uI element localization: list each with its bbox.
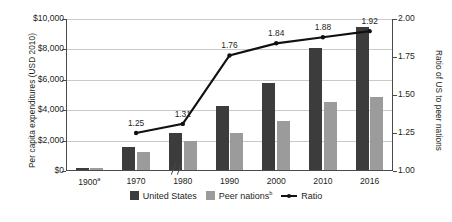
y-axis-right-ticks: 1.001.251.501.752.00 <box>398 0 442 222</box>
x-axis-label: 2016 <box>340 176 400 186</box>
ratio-value-label: 1.88 <box>315 22 331 32</box>
plot-area: 1.251.311.761.841.881.92 <box>66 19 393 171</box>
square-gray-swatch <box>206 191 215 200</box>
line-with-point-marker <box>281 191 297 200</box>
square-dark-swatch <box>130 191 139 200</box>
y-axis-right-tick-label: 2.00 <box>398 13 415 23</box>
ratio-point-marker <box>274 41 278 45</box>
y-axis-left-tickmark <box>62 171 66 172</box>
y-axis-right-tick-label: 1.00 <box>398 165 415 175</box>
y-axis-left-tick-label: $6,000 <box>14 74 64 84</box>
ratio-point-marker <box>227 53 231 57</box>
ratio-value-label: 1.92 <box>361 16 377 26</box>
legend-label: United States <box>143 191 197 201</box>
y-axis-right-tick-label: 1.50 <box>398 89 415 99</box>
legend-label: Peer nationsb <box>219 190 273 201</box>
y-axis-left-ticks: $0$2,000$4,000$6,000$8,000$10,000 <box>14 0 64 222</box>
ratio-value-label: 1.25 <box>128 118 144 128</box>
y-axis-right-tickmark <box>393 133 397 134</box>
ratio-point-marker <box>134 131 138 135</box>
y-axis-left-tick-label: $2,000 <box>14 135 64 145</box>
y-axis-right-tickmark <box>393 171 397 172</box>
ratio-value-label: 1.76 <box>221 40 237 50</box>
ratio-point-marker <box>367 29 371 33</box>
y-axis-right-tickmark <box>393 95 397 96</box>
y-axis-left-tickmark <box>62 80 66 81</box>
legend-label: Ratio <box>301 191 322 201</box>
chart-figure: Per capita expenditures (USD 2010) Ratio… <box>0 0 452 222</box>
legend-item[interactable]: United States <box>130 191 197 201</box>
y-axis-left-tickmark <box>62 19 66 20</box>
chart-legend: United StatesPeer nationsbRatio <box>0 190 452 201</box>
y-axis-left-tickmark <box>62 141 66 142</box>
ratio-polyline <box>136 31 370 133</box>
y-axis-left-tickmark <box>62 110 66 111</box>
y-axis-right-tickmark <box>393 57 397 58</box>
ratio-point-marker <box>181 122 185 126</box>
legend-label-superscript: b <box>269 190 272 196</box>
y-axis-right-tick-label: 1.75 <box>398 51 415 61</box>
y-axis-right-tickmark <box>393 19 397 20</box>
y-axis-left-tick-label: $10,000 <box>14 13 64 23</box>
x-axis-label-superscript: a <box>97 176 100 182</box>
y-axis-left-tick-label: $0 <box>14 165 64 175</box>
ratio-value-label: 1.31 <box>175 109 191 119</box>
y-axis-left-tickmark <box>62 49 66 50</box>
legend-item[interactable]: Peer nationsb <box>206 190 273 201</box>
y-axis-left-tick-label: $4,000 <box>14 104 64 114</box>
y-axis-left-tick-label: $8,000 <box>14 43 64 53</box>
ratio-point-marker <box>321 35 325 39</box>
legend-item[interactable]: Ratio <box>281 191 322 201</box>
ratio-value-label: 1.84 <box>268 28 284 38</box>
y-axis-right-tick-label: 1.25 <box>398 127 415 137</box>
